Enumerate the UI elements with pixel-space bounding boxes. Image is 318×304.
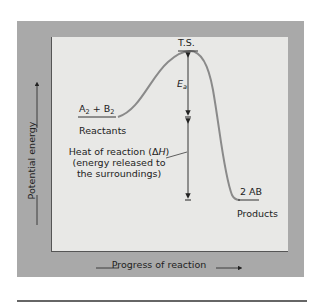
reactants-label: Reactants [79,126,126,137]
bottom-rule [17,300,307,302]
products-label: Products [237,209,278,220]
y-axis-label: Potential energy [26,101,37,221]
reactant-formula-label: A2 + B2 [79,104,114,116]
x-axis-label: Progress of reaction [0,259,318,270]
transition-state-label: T.S. [178,38,195,49]
product-formula-label: 2 AB [240,187,262,198]
heat-of-reaction-label: Heat of reaction (ΔH) (energy released t… [64,147,174,180]
activation-energy-label: Ea [177,79,187,91]
